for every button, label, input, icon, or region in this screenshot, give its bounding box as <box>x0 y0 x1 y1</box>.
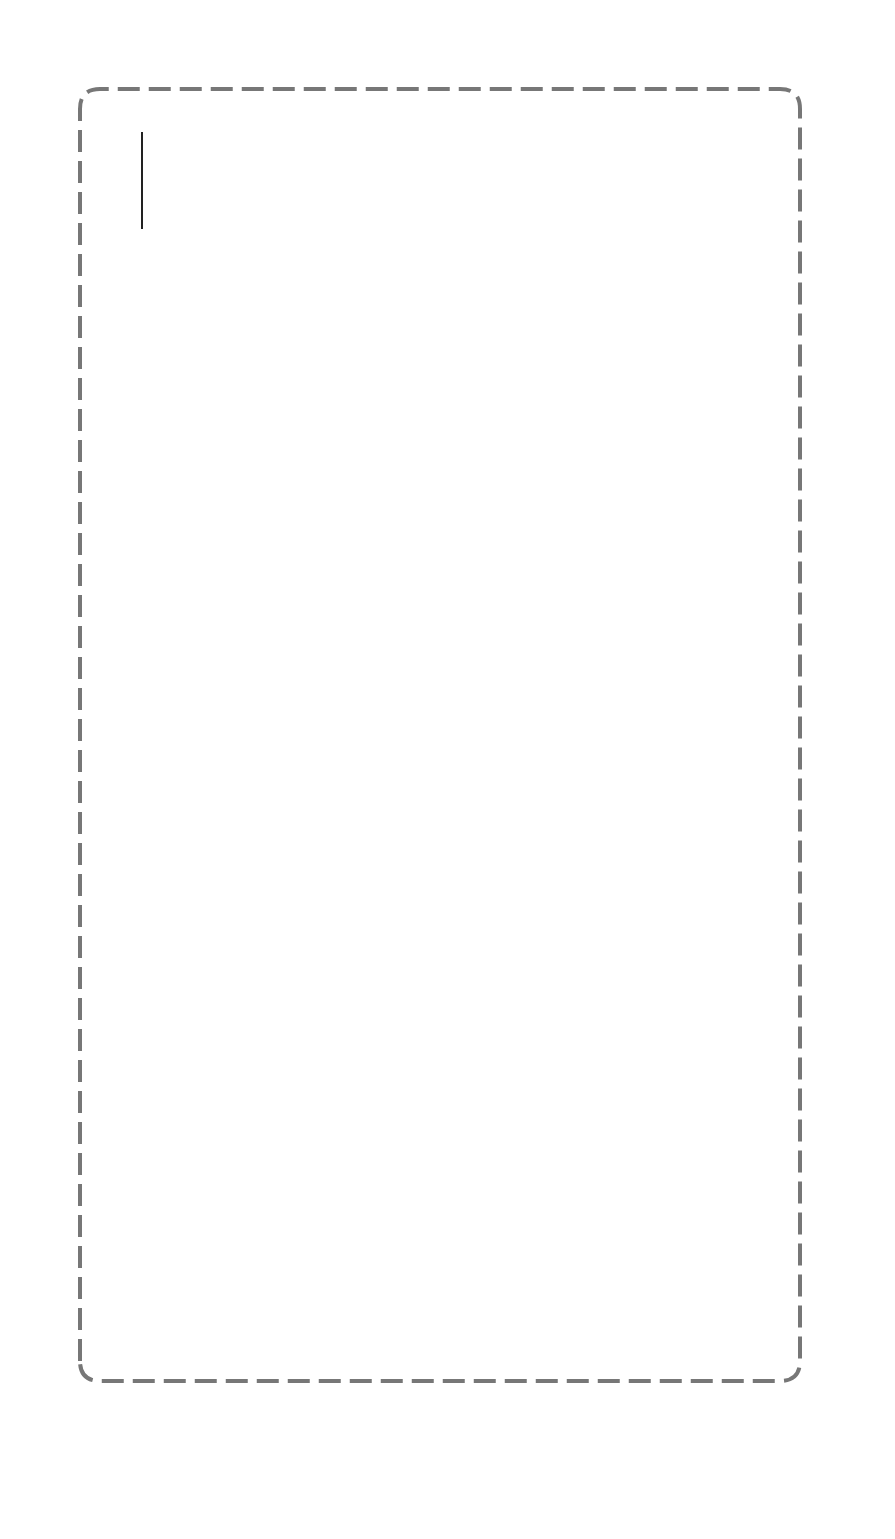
figure <box>0 0 895 1539</box>
